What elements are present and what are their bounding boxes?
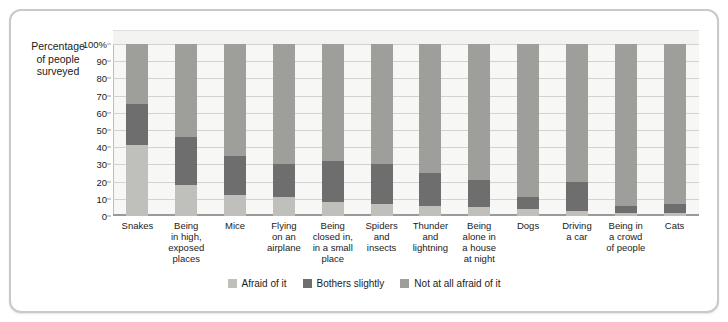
bar-slot bbox=[162, 44, 211, 216]
bar-slot bbox=[406, 44, 455, 216]
stacked-bar[interactable] bbox=[126, 44, 148, 216]
bar-slot bbox=[113, 44, 162, 216]
bar-segment bbox=[468, 180, 490, 208]
bar-slot bbox=[650, 44, 699, 216]
y-tick-mark bbox=[107, 216, 111, 217]
y-tick-label: 80 bbox=[96, 73, 107, 84]
y-tick-mark bbox=[107, 44, 111, 45]
bar-segment bbox=[371, 44, 393, 164]
stacked-bar[interactable] bbox=[273, 44, 295, 216]
bar-segment bbox=[566, 211, 588, 216]
bar-segment bbox=[273, 44, 295, 164]
y-tick-mark bbox=[107, 147, 111, 148]
bar-slot bbox=[455, 44, 504, 216]
bar-segment bbox=[419, 44, 441, 173]
bar-segment bbox=[664, 204, 686, 213]
y-tick-label: 30 bbox=[96, 159, 107, 170]
bar-segment bbox=[126, 145, 148, 216]
figure-container: Percentage of people surveyed 0102030405… bbox=[0, 0, 728, 322]
bar-segment bbox=[664, 44, 686, 204]
y-tick-label: 20 bbox=[96, 176, 107, 187]
y-axis-tick-labels: 0102030405060708090100% bbox=[74, 30, 111, 216]
y-tick-mark bbox=[107, 95, 111, 96]
bar-segment bbox=[224, 195, 246, 216]
y-tick-label: 10 bbox=[96, 193, 107, 204]
y-tick-mark bbox=[107, 198, 111, 199]
y-tick-mark bbox=[107, 164, 111, 165]
bar-segment bbox=[664, 213, 686, 216]
legend-label: Bothers slightly bbox=[317, 278, 385, 289]
legend-item[interactable]: Afraid of it bbox=[228, 278, 287, 289]
legend-item[interactable]: Not at all afraid of it bbox=[400, 278, 500, 289]
y-tick-mark bbox=[107, 181, 111, 182]
chart-legend: Afraid of itBothers slightlyNot at all a… bbox=[0, 278, 728, 289]
x-axis-tick-labels: SnakesBeing in high, exposed placesMiceF… bbox=[113, 220, 699, 272]
bar-segment bbox=[615, 213, 637, 216]
y-tick-label: 100% bbox=[83, 39, 107, 50]
bar-segment bbox=[322, 161, 344, 202]
stacked-bar[interactable] bbox=[371, 44, 393, 216]
bar-slot bbox=[211, 44, 260, 216]
plot-area bbox=[113, 30, 699, 216]
bar-group bbox=[113, 44, 699, 216]
bar-segment bbox=[126, 104, 148, 145]
y-tick-label: 90 bbox=[96, 56, 107, 67]
stacked-bar[interactable] bbox=[468, 44, 490, 216]
stacked-bar[interactable] bbox=[517, 44, 539, 216]
y-tick-label: 50 bbox=[96, 125, 107, 136]
bar-segment bbox=[175, 185, 197, 216]
bar-segment bbox=[322, 202, 344, 216]
bar-segment bbox=[566, 182, 588, 211]
bar-segment bbox=[322, 44, 344, 161]
bar-segment bbox=[224, 156, 246, 196]
bar-segment bbox=[224, 44, 246, 156]
bar-segment bbox=[419, 206, 441, 216]
bar-segment bbox=[566, 44, 588, 182]
y-tick-mark bbox=[107, 130, 111, 131]
bar-segment bbox=[419, 173, 441, 206]
bar-segment bbox=[371, 164, 393, 204]
stacked-bar[interactable] bbox=[175, 44, 197, 216]
legend-swatch-icon bbox=[303, 279, 312, 288]
bar-segment bbox=[615, 44, 637, 206]
legend-swatch-icon bbox=[228, 279, 237, 288]
legend-swatch-icon bbox=[400, 279, 409, 288]
y-tick-mark bbox=[107, 78, 111, 79]
stacked-bar[interactable] bbox=[664, 44, 686, 216]
legend-item[interactable]: Bothers slightly bbox=[303, 278, 385, 289]
bar-segment bbox=[371, 204, 393, 216]
bar-slot bbox=[601, 44, 650, 216]
legend-label: Afraid of it bbox=[242, 278, 287, 289]
x-tick-label: Cats bbox=[644, 220, 705, 231]
bar-segment bbox=[273, 197, 295, 216]
stacked-bar[interactable] bbox=[419, 44, 441, 216]
bar-segment bbox=[517, 197, 539, 209]
bar-segment bbox=[126, 44, 148, 104]
y-tick-mark bbox=[107, 112, 111, 113]
y-tick-mark bbox=[107, 61, 111, 62]
bar-segment bbox=[273, 164, 295, 197]
bar-segment bbox=[175, 137, 197, 185]
bar-segment bbox=[468, 207, 490, 216]
legend-label: Not at all afraid of it bbox=[414, 278, 500, 289]
stacked-bar[interactable] bbox=[322, 44, 344, 216]
bar-segment bbox=[175, 44, 197, 137]
bar-segment bbox=[615, 206, 637, 213]
stacked-bar[interactable] bbox=[224, 44, 246, 216]
bar-segment bbox=[468, 44, 490, 180]
bar-slot bbox=[357, 44, 406, 216]
bar-slot bbox=[504, 44, 553, 216]
y-tick-label: 60 bbox=[96, 107, 107, 118]
bar-segment bbox=[517, 44, 539, 197]
bar-segment bbox=[517, 209, 539, 216]
bar-slot bbox=[553, 44, 602, 216]
y-tick-label: 40 bbox=[96, 142, 107, 153]
bar-slot bbox=[260, 44, 309, 216]
stacked-bar[interactable] bbox=[615, 44, 637, 216]
y-tick-label: 70 bbox=[96, 90, 107, 101]
stacked-bar[interactable] bbox=[566, 44, 588, 216]
bar-slot bbox=[308, 44, 357, 216]
